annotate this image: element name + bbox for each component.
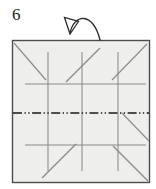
origami-diagram [0, 0, 156, 189]
fold-arrow-head-icon [65, 18, 79, 35]
fold-arrow-arc [70, 18, 100, 40]
origami-step-figure: 6 [0, 0, 156, 189]
